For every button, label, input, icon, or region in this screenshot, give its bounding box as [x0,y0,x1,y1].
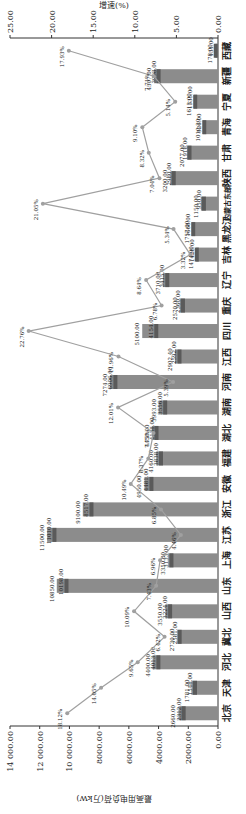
growth-point [132,609,136,613]
actual-marker [191,222,195,236]
growth-label: 10.49% [121,479,127,500]
actual-marker [154,324,158,338]
growth-point [158,558,162,562]
actual-label: 3998.00 [151,60,157,83]
growth-point [99,686,103,690]
category-label: 山东 [221,577,232,595]
right-tick-label: 25.00 [6,10,15,33]
growth-label: 7.04% [149,175,155,192]
growth-point [152,74,156,78]
actual-marker [64,579,68,593]
growth-label: 21.05% [33,199,39,220]
right-axis-title: 增速(%) [99,0,129,10]
growth-label: 10.09% [124,607,130,628]
category-label: 重庆 [221,297,232,315]
category-label: 冀北 [221,628,232,646]
actual-marker [202,197,206,211]
chart-stage: 0.002000.004000.006000.008000.0010 000.0… [0,0,246,814]
forecast-label: 5100.00 [134,322,140,345]
growth-label: 4.46% [171,532,177,549]
category-label: 上海 [221,551,232,569]
forecast-bar [165,604,218,618]
actual-marker [163,400,167,414]
actual-marker [202,120,206,134]
actual-label: 2980.00 [166,162,172,185]
actual-marker [188,146,192,160]
right-tick-label: 20.00 [48,10,57,33]
growth-point [147,151,151,155]
category-label: 吉林 [221,245,232,264]
growth-point [116,355,120,359]
actual-label: 151.00 [208,37,214,57]
category-label: 安徽 [221,474,232,493]
left-tick-label: 14 000.00 [6,731,15,772]
forecast-bar [159,400,218,414]
actual-marker [214,44,218,58]
actual-marker [89,502,93,516]
forecast-bar [194,95,218,109]
actual-label: 1535.00 [187,86,193,109]
growth-point [154,584,158,588]
growth-point [159,507,163,511]
forecast-bar [168,553,218,567]
growth-label: 9.10% [132,124,138,141]
actual-label: 8517.00 [83,494,89,517]
actual-marker [178,630,182,644]
forecast-bar [156,451,218,465]
category-label: 辽宁 [221,271,232,289]
growth-point [171,380,175,384]
growth-label: 8.64% [136,277,142,294]
growth-point [65,711,69,715]
forecast-label: 4950.00 [136,475,142,498]
growth-label: 8.37% [138,456,144,473]
category-label: 甘肃 [221,144,232,162]
growth-point [136,660,140,664]
growth-point [146,456,150,460]
actual-marker [168,604,172,618]
right-tick-label: 10.00 [131,10,140,33]
growth-label: 5.39% [163,379,169,396]
growth-point [188,253,192,257]
growth-point [116,405,120,409]
growth-point [179,533,183,537]
category-label: 天津 [221,679,232,697]
growth-point [172,227,176,231]
actual-label: 10198.00 [58,568,64,595]
forecast-bar [57,579,218,593]
growth-label: 6.96% [150,558,156,575]
actual-label: 2581.00 [172,621,178,644]
actual-marker [182,706,186,720]
growth-label: 5.14% [165,99,171,116]
forecast-bar [177,630,218,644]
actual-label: 3224.00 [162,595,168,618]
category-label: 山西 [221,602,232,620]
actual-marker [159,451,163,465]
category-label: 青海 [221,118,232,136]
growth-point [157,176,161,180]
actual-marker [193,681,197,695]
forecast-bar [170,171,218,185]
category-label: 江苏 [221,526,232,544]
left-tick-label: 6000.00 [125,731,134,764]
forecast-bar [47,528,218,542]
growth-point [163,635,167,639]
forecast-bar [153,655,218,669]
category-label: 湖北 [221,424,232,442]
category-label: 四川 [222,322,232,340]
growth-point [140,125,144,129]
actual-marker [149,477,153,491]
category-label: 河北 [221,653,232,671]
actual-marker [193,95,197,109]
forecast-label: 3993.00 [151,399,157,422]
growth-label: 7.75% [144,430,150,447]
actual-label: 1668.00 [185,213,191,236]
category-label: 河南 [221,373,232,391]
growth-label: 6.42% [155,634,161,651]
forecast-bar [196,248,218,262]
forecast-bar [163,273,218,287]
growth-point [152,431,156,435]
load-growth-chart: 0.002000.004000.006000.008000.0010 000.0… [0,0,246,814]
actual-marker [172,171,176,185]
actual-label: 3415.00 [159,264,165,287]
right-tick-label: 0.00 [214,15,223,33]
